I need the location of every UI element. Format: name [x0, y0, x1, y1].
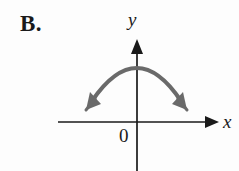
- y-axis-arrowhead-icon: [131, 39, 143, 54]
- y-axis-label: y: [128, 10, 136, 29]
- origin-label: 0: [119, 126, 129, 145]
- x-axis-arrowhead-icon: [205, 116, 219, 128]
- graph-figure: B. y x 0: [0, 0, 239, 171]
- x-axis-label: x: [223, 112, 231, 131]
- part-label: B.: [20, 12, 42, 35]
